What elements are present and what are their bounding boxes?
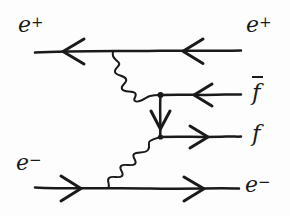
label-top-right-superscript: + [259,13,272,31]
lower-photon-wavy-line [108,137,160,188]
label-top-left-positron: e+ [18,14,44,36]
label-fbar: f [252,76,261,104]
f-line [160,137,242,138]
label-bottom-right-superscript: − [258,173,271,191]
label-top-right-symbol: e [246,12,259,37]
label-bottom-left-electron: e− [16,152,42,174]
electron-line [35,187,239,188]
label-bottom-right-symbol: e [245,172,258,197]
label-f: f [252,122,261,145]
label-f-symbol: f [252,120,261,146]
fbar-line [159,94,241,95]
label-bottom-right-electron: e− [245,174,271,196]
label-bottom-left-symbol: e [16,150,29,175]
label-top-left-symbol: e [18,12,31,37]
label-top-left-superscript: + [31,13,44,31]
overbar-rule [252,76,263,78]
label-bottom-left-superscript: − [29,151,42,169]
label-fbar-overbar-group: f [252,76,261,104]
label-top-right-positron: e+ [246,14,272,36]
upper-photon-wavy-line [113,52,160,102]
feynman-diagram-canvas: e+ e+ f f e− e− [0,0,290,216]
label-fbar-symbol: f [252,76,261,104]
